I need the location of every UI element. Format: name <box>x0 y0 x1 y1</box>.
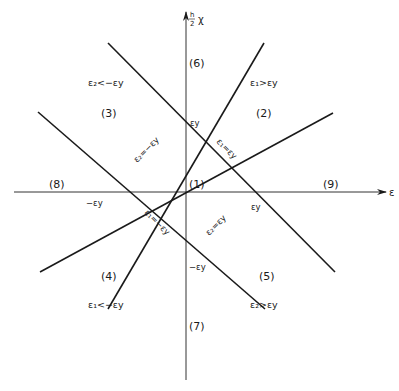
region-7: (7) <box>189 320 205 333</box>
region-9: (9) <box>323 178 339 191</box>
intercept-right: εy <box>251 202 261 212</box>
region-2: (2) <box>256 107 272 120</box>
region-3: (3) <box>101 107 117 120</box>
condition-top-left: ε₂<−εy <box>88 77 124 88</box>
vertical-axis-label-chi: χ <box>198 14 204 25</box>
yield-region-diagram: ε h 2 χ (1) (2) (3) (4) (5) (6) (7) (8) … <box>0 0 399 391</box>
region-5: (5) <box>259 270 275 283</box>
condition-bottom-left: ε₁<−εy <box>88 299 124 310</box>
line-label-lower-left: ε₁=−εy <box>143 207 173 237</box>
horizontal-axis-label: ε <box>389 187 394 198</box>
line-label-upper-right: ε₁=εy <box>215 136 240 161</box>
vertical-axis-label-2: 2 <box>190 20 194 28</box>
intercept-left: −εy <box>86 198 103 208</box>
line-label-lower-right: ε₂=εy <box>203 213 228 238</box>
condition-top-right: ε₁>εy <box>250 77 278 88</box>
region-6: (6) <box>189 57 205 70</box>
region-4: (4) <box>101 270 117 283</box>
region-1: (1) <box>189 178 205 191</box>
intercept-top: εy <box>190 118 200 128</box>
region-8: (8) <box>49 178 65 191</box>
vertical-axis-label-h: h <box>190 11 194 19</box>
line-label-upper-left: ε₂=−εy <box>131 135 161 165</box>
intercept-bottom: −εy <box>189 262 206 272</box>
condition-bottom-right: ε₂>εy <box>250 299 278 310</box>
